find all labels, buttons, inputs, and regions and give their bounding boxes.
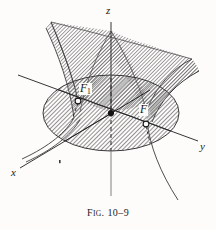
focus-1-subscript: 1 xyxy=(87,87,91,96)
print-speck xyxy=(59,160,61,163)
y-axis-label: y xyxy=(199,140,205,152)
caption-fig-small: IG xyxy=(93,209,102,218)
focus-2-letter: F xyxy=(140,103,147,115)
figure-10-9: x y z F1 F FIG.10–9 xyxy=(0,0,216,230)
figure-drawing: x y z xyxy=(0,0,216,230)
focus-2-marker xyxy=(143,121,149,127)
origin-marker xyxy=(108,110,114,116)
focus-2-label: F xyxy=(139,104,148,116)
caption-number: 10–9 xyxy=(107,207,129,218)
focus-1-label: F1 xyxy=(79,83,92,95)
z-axis-label: z xyxy=(105,4,111,16)
figure-caption: FIG.10–9 xyxy=(0,207,216,218)
x-axis-label: x xyxy=(10,166,16,178)
focus-1-marker xyxy=(75,98,81,104)
caption-period: . xyxy=(102,207,105,218)
focus-1-letter: F xyxy=(80,82,87,94)
